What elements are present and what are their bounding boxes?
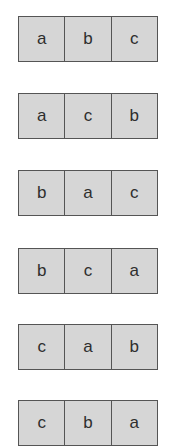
permutation-cell: c [19,401,64,445]
permutation-cell: b [19,249,64,293]
permutation-row-1: a b c [18,16,158,62]
permutation-cell: b [64,401,110,445]
permutation-cell: b [64,17,110,61]
permutation-cell: a [64,171,110,215]
permutation-cell: c [111,17,157,61]
permutation-cell: c [19,325,64,369]
permutation-row-3: b a c [18,170,158,216]
permutation-row-2: a c b [18,93,158,139]
permutation-cell: a [111,249,157,293]
permutation-cell: c [111,171,157,215]
permutation-cell: c [64,94,110,138]
permutation-row-6: c b a [18,400,158,446]
permutation-row-5: c a b [18,324,158,370]
permutation-cell: a [111,401,157,445]
permutation-cell: a [64,325,110,369]
permutation-cell: a [19,17,64,61]
permutation-cell: b [111,94,157,138]
permutation-cell: b [19,171,64,215]
permutation-cell: b [111,325,157,369]
permutation-cell: c [64,249,110,293]
permutation-row-4: b c a [18,248,158,294]
permutation-cell: a [19,94,64,138]
